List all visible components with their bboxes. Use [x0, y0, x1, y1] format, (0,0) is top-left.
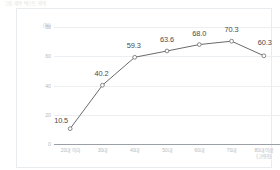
y-axis-tick-label: 0: [48, 141, 51, 147]
data-point-marker: [230, 39, 234, 43]
data-point-marker: [101, 83, 105, 87]
line-series: [54, 27, 280, 144]
data-point-label: 10.5: [54, 116, 68, 125]
x-axis-tick-label: 30대: [98, 148, 107, 154]
data-point-label: 60.3: [258, 38, 272, 47]
x-axis-tick-label-line1: 40대: [130, 148, 139, 153]
data-point-label: 40.2: [94, 69, 108, 78]
x-axis-tick-label-line1: 20대 이하: [61, 148, 80, 153]
data-point-marker: [133, 55, 137, 59]
data-point-marker: [262, 54, 266, 58]
x-axis-tick-label: 20대 이하: [61, 148, 80, 154]
x-axis-tick-label: 50대: [162, 148, 171, 154]
y-axis-tick-label: 80: [45, 24, 51, 30]
plot-area: 02040608010.540.259.363.668.070.360.3: [54, 27, 280, 144]
x-axis-tick-label: 40대: [130, 148, 139, 154]
x-axis-tick-label: 60대: [195, 148, 204, 154]
x-axis-tick-label-line1: 60대: [195, 148, 204, 153]
data-point-label: 59.3: [127, 41, 141, 50]
data-point-label: 68.0: [192, 29, 206, 38]
x-axis-tick-label-line1: 70대: [227, 148, 236, 153]
y-axis-tick-label: 60: [45, 53, 51, 59]
data-point-marker: [165, 49, 169, 53]
x-axis-tick-label-line1: 80대 이상: [254, 148, 273, 153]
data-point-marker: [197, 43, 201, 47]
y-axis-tick-label: 40: [45, 83, 51, 89]
x-axis-tick-label-line1: 30대: [98, 148, 107, 153]
y-axis-tick-label: 20: [45, 112, 51, 118]
data-point-marker: [68, 127, 72, 131]
top-caption: 그림 제목 텍스트 영역: [4, 0, 244, 7]
chart-figure-frame: (%) 02040608010.540.259.363.668.070.360.…: [16, 8, 272, 168]
x-axis-tick-label: 80대 이상(고령층): [254, 148, 273, 160]
data-point-label: 70.3: [225, 25, 239, 34]
series-line: [70, 41, 264, 128]
x-axis-tick-label-line2: (고령층): [254, 154, 273, 160]
x-axis-tick-label-line1: 50대: [162, 148, 171, 153]
x-axis-line: [54, 144, 280, 145]
x-axis-tick-label: 70대: [227, 148, 236, 154]
data-point-label: 63.6: [160, 35, 174, 44]
